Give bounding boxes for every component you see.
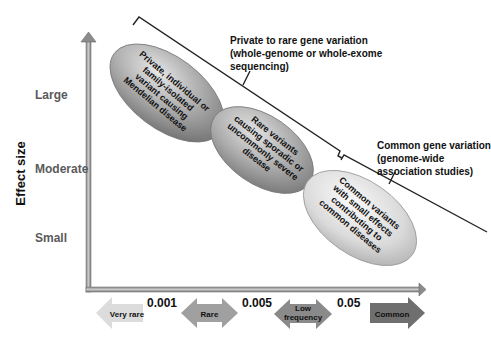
svg-text:Low: Low: [295, 304, 312, 313]
bracket-label-line: Common gene variation: [377, 139, 491, 152]
bracket-label-line: association studies): [377, 165, 491, 178]
effect-size-vs-allele-frequency-diagram: Private, individual or family-isolated v…: [0, 0, 491, 343]
y-tick-moderate: Moderate: [35, 162, 88, 176]
y-tick-large: Large: [35, 88, 68, 102]
x-axis-arrow: [86, 283, 426, 296]
bracket-label-line: (whole-genome or whole-exome: [230, 47, 382, 60]
bracket-label-common: Common gene variation (genome-wide assoc…: [377, 139, 491, 178]
svg-text:Rare: Rare: [201, 310, 219, 319]
category-arrow-very-rare: Very rare: [96, 297, 145, 329]
bracket-label-line: Private to rare gene variation: [230, 34, 382, 47]
category-arrow-rare: Rare: [181, 298, 238, 328]
svg-text:Very rare: Very rare: [110, 310, 145, 319]
y-axis-title: Effect size: [13, 139, 28, 209]
y-tick-small: Small: [35, 231, 67, 245]
threshold-0-05: 0.05: [337, 296, 360, 310]
category-arrow-common: Common: [370, 297, 425, 329]
bracket-label-line: sequencing): [230, 60, 382, 73]
category-arrow-low-frequency: Low frequency: [274, 299, 332, 329]
bracket-label-line: (genome-wide: [377, 152, 491, 165]
svg-text:frequency: frequency: [284, 313, 323, 322]
svg-text:Common: Common: [375, 310, 410, 319]
bracket-label-private-to-rare: Private to rare gene variation (whole-ge…: [230, 34, 382, 73]
threshold-0-005: 0.005: [242, 296, 272, 310]
threshold-0-001: 0.001: [147, 296, 177, 310]
